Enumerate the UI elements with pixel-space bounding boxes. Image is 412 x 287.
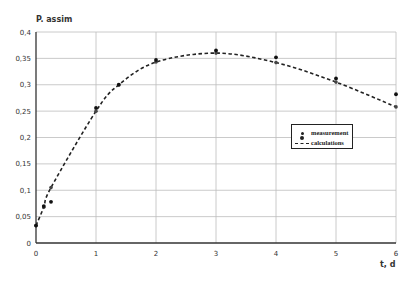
svg-text:0,2: 0,2 [20,134,31,142]
svg-text:0,25: 0,25 [15,108,31,116]
svg-text:0,1: 0,1 [20,187,31,195]
svg-text:0,35: 0,35 [15,55,31,63]
legend-label: measurement [311,129,348,136]
svg-text:6: 6 [394,250,399,258]
svg-text:2: 2 [154,250,158,258]
svg-text:0,15: 0,15 [15,160,31,168]
svg-text:3: 3 [214,250,218,258]
svg-text:0,05: 0,05 [15,213,31,221]
svg-text:0: 0 [27,240,31,248]
svg-text:1: 1 [94,250,98,258]
svg-text:0: 0 [34,250,38,258]
svg-text:0,4: 0,4 [20,29,32,37]
svg-text:4: 4 [274,250,279,258]
cropped-caption [0,281,412,287]
legend-label: calculations [311,139,344,146]
dot-marker-icon [295,129,309,136]
dashed-line-icon [295,139,309,146]
legend: measurement calculations [291,124,353,149]
svg-text:5: 5 [334,250,338,258]
legend-item-calculations: calculations [295,137,349,147]
x-axis-label: t, d [380,260,396,269]
y-axis-label: P. assim [36,15,72,24]
svg-text:0,3: 0,3 [20,81,31,89]
